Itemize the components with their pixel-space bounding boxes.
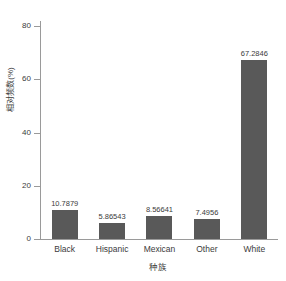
x-tick-label: Hispanic xyxy=(88,244,135,254)
bar-group: 10.7879 xyxy=(41,21,88,239)
bar xyxy=(146,216,172,239)
bar-group: 8.56641 xyxy=(136,21,183,239)
y-tick-mark xyxy=(34,133,40,134)
y-tick-label: 40 xyxy=(8,129,31,137)
bar-value-label: 5.86543 xyxy=(99,213,126,221)
bar-value-label: 67.2846 xyxy=(241,50,268,58)
y-tick-label: 60 xyxy=(8,75,31,83)
bar-value-label: 10.7879 xyxy=(51,200,78,208)
bar xyxy=(99,223,125,239)
bar-group: 67.2846 xyxy=(231,21,278,239)
y-tick-mark xyxy=(34,186,40,187)
bar-group: 5.86543 xyxy=(88,21,135,239)
y-tick-label: 20 xyxy=(8,182,31,190)
y-tick-label: 0 xyxy=(8,235,31,243)
y-tick-label: 80 xyxy=(8,22,31,30)
x-tick-label: Other xyxy=(183,244,230,254)
bar-chart: 相对频数(%) 020406080 10.78795.865438.566417… xyxy=(0,0,286,281)
y-tick-mark xyxy=(34,239,40,240)
bar xyxy=(52,210,78,239)
plot-area: 10.78795.865438.566417.495667.2846 xyxy=(41,21,278,239)
x-axis-line xyxy=(40,239,278,240)
bar xyxy=(241,60,267,239)
y-tick-mark xyxy=(34,79,40,80)
y-axis-label: 相对频数(%) xyxy=(4,51,15,129)
x-tick-label: Black xyxy=(41,244,88,254)
bar xyxy=(194,219,220,239)
x-tick-label: Mexican xyxy=(136,244,183,254)
y-tick-mark xyxy=(34,26,40,27)
bar-value-label: 8.56641 xyxy=(146,206,173,214)
x-tick-label: White xyxy=(231,244,278,254)
bar-value-label: 7.4956 xyxy=(195,209,218,217)
bar-group: 7.4956 xyxy=(183,21,230,239)
x-axis-label: 种族 xyxy=(40,260,275,272)
